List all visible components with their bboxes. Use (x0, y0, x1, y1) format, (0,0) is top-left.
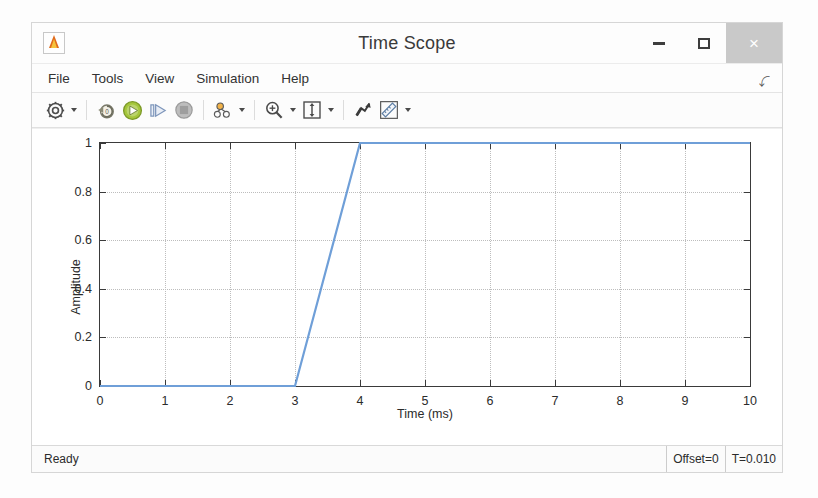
time-scope-window: Time Scope × File Tools View Simulation … (31, 22, 783, 473)
status-bar: Ready Offset=0 T=0.010 (32, 445, 782, 472)
status-offset: Offset=0 (666, 446, 724, 472)
close-button[interactable]: × (726, 23, 782, 63)
x-axis-tick-label: 9 (682, 394, 689, 408)
toolbar-separator (203, 100, 204, 120)
x-axis-label: Time (ms) (99, 407, 751, 421)
run-play-icon[interactable] (119, 97, 145, 123)
x-axis-tick-label: 0 (97, 394, 104, 408)
autoscale-dropdown-caret[interactable] (325, 97, 337, 123)
x-axis-tick-label: 6 (487, 394, 494, 408)
y-axis-tick-label: 1 (85, 136, 92, 150)
screenshot-page: Time Scope × File Tools View Simulation … (0, 0, 818, 498)
x-axis-tick-label: 7 (552, 394, 559, 408)
stop-icon[interactable] (171, 97, 197, 123)
toolbar: 0 (32, 93, 782, 128)
menu-file[interactable]: File (48, 71, 70, 86)
plot-frame[interactable]: 00.20.40.60.81012345678910 (99, 142, 751, 387)
rewind-to-start-icon[interactable]: 0 (93, 97, 119, 123)
menu-simulation[interactable]: Simulation (196, 71, 259, 86)
matlab-scope-icon (43, 32, 65, 54)
x-axis-tick-label: 1 (162, 394, 169, 408)
x-axis-tick-label: 3 (292, 394, 299, 408)
signal-plot (100, 143, 750, 386)
step-forward-icon[interactable] (145, 97, 171, 123)
menu-bar: File Tools View Simulation Help ⤵ (32, 64, 782, 93)
toolbar-separator (254, 100, 255, 120)
window-controls: × (636, 23, 782, 63)
menu-expander-icon[interactable]: ⤵ (759, 73, 770, 89)
menu-view[interactable]: View (145, 71, 174, 86)
configuration-dropdown-caret[interactable] (68, 97, 80, 123)
maximize-icon (698, 38, 710, 49)
signal-selection-icon[interactable] (210, 97, 236, 123)
minimize-button[interactable] (636, 23, 681, 63)
zoom-in-icon[interactable] (261, 97, 287, 123)
x-axis-tick (750, 380, 751, 386)
y-axis-tick-label: 0 (85, 379, 92, 393)
menu-help[interactable]: Help (281, 71, 309, 86)
status-time: T=0.010 (725, 446, 782, 472)
y-axis-tick (744, 386, 750, 387)
signal-selection-dropdown-caret[interactable] (236, 97, 248, 123)
svg-text:0: 0 (105, 108, 109, 115)
signal-trace (100, 143, 750, 386)
highlight-signal-icon[interactable] (350, 97, 376, 123)
icon-flame-inner (51, 39, 57, 48)
y-axis-tick-label: 0.2 (75, 330, 92, 344)
plot-area: Amplitude Time (ms) 00.20.40.60.81012345… (32, 128, 782, 445)
y-axis-tick-label: 0.4 (75, 282, 92, 296)
y-axis-tick-label: 0.8 (75, 185, 92, 199)
y-axis-tick-label: 0.6 (75, 233, 92, 247)
menu-tools[interactable]: Tools (92, 71, 124, 86)
autoscale-fit-icon[interactable] (299, 97, 325, 123)
zoom-dropdown-caret[interactable] (287, 97, 299, 123)
toolbar-separator (86, 100, 87, 120)
minimize-icon (653, 42, 665, 45)
measurements-ruler-icon[interactable] (376, 97, 402, 123)
configuration-properties-icon[interactable] (42, 97, 68, 123)
x-axis-tick-label: 5 (422, 394, 429, 408)
x-axis-tick-label: 8 (617, 394, 624, 408)
toolbar-separator (343, 100, 344, 120)
status-message: Ready (32, 446, 666, 472)
measurements-dropdown-caret[interactable] (402, 97, 414, 123)
x-axis-tick-label: 4 (357, 394, 364, 408)
x-axis-tick-label: 2 (227, 394, 234, 408)
x-axis-tick-label: 10 (743, 394, 757, 408)
maximize-button[interactable] (681, 23, 726, 63)
x-axis-tick (750, 143, 751, 149)
title-bar: Time Scope × (32, 23, 782, 64)
